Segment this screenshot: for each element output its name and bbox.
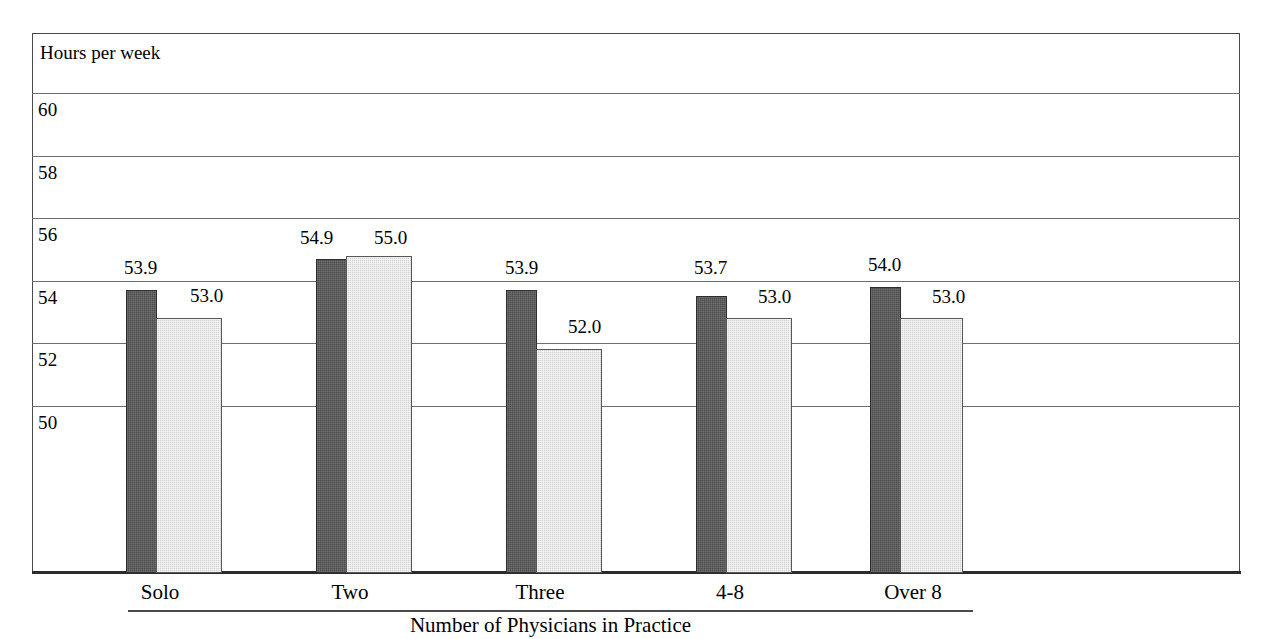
value-label-dark-solo: 53.9	[124, 258, 157, 277]
y-tick-label-58: 58	[38, 163, 57, 182]
chart-page: Hours per week 60 58 56 54 52 50 53.9 53…	[0, 0, 1263, 639]
value-label-dark-three: 53.9	[505, 258, 538, 277]
x-tick-label-two: Two	[290, 580, 410, 604]
x-tick-label-over-8: Over 8	[848, 580, 978, 604]
bar-light-over-8	[900, 318, 963, 573]
y-tick-label-50: 50	[38, 413, 57, 432]
bar-light-three	[536, 349, 602, 573]
gridline-58	[32, 156, 1240, 157]
value-label-light-solo: 53.0	[190, 286, 223, 305]
x-tick-label-three: Three	[480, 580, 600, 604]
y-tick-label-52: 52	[38, 350, 57, 369]
y-tick-label-60: 60	[38, 100, 57, 119]
bar-dark-three	[506, 290, 537, 573]
gridline-56	[32, 218, 1240, 219]
value-label-dark-over-8: 54.0	[868, 255, 901, 274]
bar-light-4-8	[726, 318, 792, 573]
value-label-light-two: 55.0	[374, 228, 407, 247]
bar-dark-over-8	[870, 287, 901, 573]
bar-dark-two	[316, 259, 347, 573]
gridline-60	[32, 93, 1240, 94]
value-label-dark-two: 54.9	[300, 228, 333, 247]
y-tick-label-54: 54	[38, 288, 57, 307]
bar-light-solo	[156, 318, 222, 573]
y-tick-label-56: 56	[38, 225, 57, 244]
gridline-54	[32, 281, 1240, 282]
x-axis-title: Number of Physicians in Practice	[128, 613, 973, 638]
bar-light-two	[346, 256, 412, 573]
y-axis-caption: Hours per week	[40, 42, 160, 64]
value-label-light-4-8: 53.0	[758, 287, 791, 306]
bar-dark-solo	[126, 290, 157, 573]
category-row-underline	[128, 610, 973, 612]
bar-dark-4-8	[696, 296, 727, 573]
x-tick-label-4-8: 4-8	[670, 580, 790, 604]
value-label-light-three: 52.0	[568, 317, 601, 336]
value-label-dark-4-8: 53.7	[694, 258, 727, 277]
value-label-light-over-8: 53.0	[932, 287, 965, 306]
x-tick-label-solo: Solo	[100, 580, 220, 604]
